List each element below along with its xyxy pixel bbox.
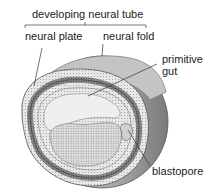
neural-fold-leader [102,44,103,56]
embryo-illustration [0,0,217,191]
developing-neural-tube-label: developing neural tube [32,8,143,20]
neural-plate-label: neural plate [25,30,83,42]
neural-fold-label: neural fold [103,30,154,42]
neural-tube-bracket [25,25,146,28]
primitive-gut-label-line1: primitive [162,53,203,65]
blastopore-label: blastopore [152,165,203,177]
primitive-gut-label-line2: gut [162,65,177,77]
